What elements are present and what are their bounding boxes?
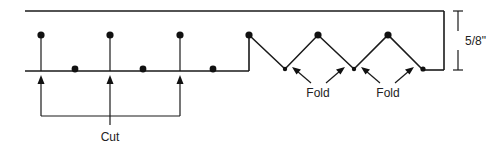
zigzag-valley-dot-3: [420, 66, 425, 71]
cut-indicator: Cut: [38, 75, 184, 144]
cut-stem-dot-2: [106, 31, 113, 38]
zigzag-line: [249, 35, 423, 71]
cut-stem-dot-1: [37, 31, 44, 38]
baseline-dot-1: [72, 66, 79, 73]
cut-label: Cut: [101, 130, 120, 144]
cut-arrowhead-3: [177, 75, 184, 84]
dimension-marker: 5/8": [453, 11, 486, 70]
baseline-dot-3: [210, 66, 217, 73]
zigzag-peak-dot-1: [245, 31, 252, 38]
fold-label-1: Fold: [306, 86, 329, 100]
cut-arrowhead-2: [107, 75, 114, 84]
cut-stems: [37, 31, 183, 71]
fold-arrow-shaft-2a: [366, 71, 380, 83]
fold-arrow-shaft-1b: [326, 71, 340, 83]
zigzag-fold-section: [245, 31, 425, 71]
baseline-dot-2: [140, 66, 147, 73]
dimension-label: 5/8": [465, 34, 486, 48]
fold-cut-diagram: Cut Fold Fold 5/8": [0, 0, 491, 148]
fold-arrow-shaft-1a: [297, 71, 311, 83]
zigzag-peak-dot-3: [384, 31, 391, 38]
zigzag-valley-dot-1: [283, 67, 287, 71]
fold-label-2: Fold: [376, 86, 399, 100]
zigzag-peak-dot-2: [314, 31, 321, 38]
fold-indicator-1: Fold: [292, 67, 345, 100]
zigzag-valley-dot-2: [352, 67, 356, 71]
fold-indicator-2: Fold: [361, 67, 414, 100]
cut-arrowhead-1: [38, 75, 45, 84]
fold-arrow-shaft-2b: [395, 71, 409, 83]
cut-stem-dot-3: [176, 31, 183, 38]
